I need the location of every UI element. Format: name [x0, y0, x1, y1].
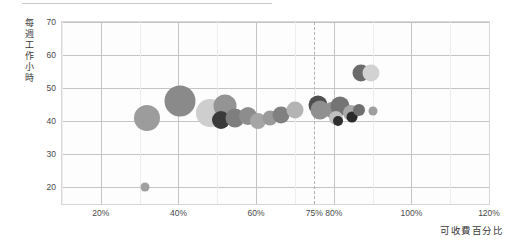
x-axis-tick-label: 80%: [325, 208, 342, 218]
data-bubble[interactable]: [368, 107, 377, 116]
y-axis-tick-label: 40: [47, 116, 56, 126]
gridline-horizontal: [62, 55, 489, 56]
gridline-horizontal: [62, 88, 489, 89]
gridline-horizontal: [62, 187, 489, 188]
gridline-vertical: [489, 22, 490, 204]
y-axis-title-char: 作: [22, 51, 36, 62]
y-axis-tick-label: 50: [47, 83, 56, 93]
data-bubble[interactable]: [333, 116, 343, 126]
gridline-vertical-minor: [62, 22, 63, 204]
top-divider: [22, 3, 272, 4]
data-bubble[interactable]: [141, 183, 150, 192]
gridline-horizontal: [62, 154, 489, 155]
gridline-vertical: [411, 22, 412, 204]
y-axis-title-char: 小: [22, 62, 36, 73]
data-bubble[interactable]: [353, 104, 365, 116]
data-bubble[interactable]: [362, 65, 379, 82]
x-axis-tick-label: 20%: [92, 208, 109, 218]
x-axis-tick-label: 75%: [306, 208, 323, 218]
x-axis-tick-label: 40%: [170, 208, 187, 218]
gridline-vertical-minor: [450, 22, 451, 204]
y-axis-title-char: 每: [22, 18, 36, 29]
data-bubble[interactable]: [165, 86, 196, 117]
x-axis-tick-label: 120%: [478, 208, 500, 218]
y-axis-tick-label: 70: [47, 17, 56, 27]
bubble-chart: 每週工作小時 706050403020 20%40%60%75%80%100%1…: [0, 0, 517, 243]
x-axis-tick-labels: 20%40%60%75%80%100%120%: [0, 208, 517, 222]
y-axis-title-char: 週: [22, 29, 36, 40]
x-axis-tick-label: 60%: [248, 208, 265, 218]
gridline-vertical: [101, 22, 102, 204]
y-axis-title-char: 時: [22, 73, 36, 84]
gridline-horizontal: [62, 22, 489, 23]
y-axis-tick-labels: 706050403020: [36, 0, 58, 243]
y-axis-title-char: 工: [22, 40, 36, 51]
data-bubble[interactable]: [134, 105, 160, 131]
x-axis-tick-label: 100%: [400, 208, 422, 218]
y-axis-tick-label: 30: [47, 149, 56, 159]
x-axis-title: 可收費百分比: [440, 223, 503, 237]
plot-area: [61, 21, 490, 205]
y-axis-tick-label: 60: [47, 50, 56, 60]
y-axis-title: 每週工作小時: [22, 18, 36, 84]
data-bubble[interactable]: [286, 101, 303, 118]
y-axis-tick-label: 20: [47, 182, 56, 192]
